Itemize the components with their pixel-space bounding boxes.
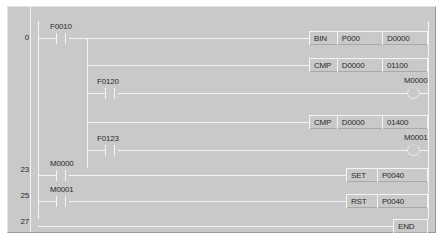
instruction-op-set: SET [346,168,377,182]
instruction-op-end: END [393,219,428,233]
coil-m0000-wire-out [420,93,429,94]
contact-label-f0120: F0120 [97,77,119,86]
contact-f0123[interactable] [101,145,119,156]
contact-f0120[interactable] [101,88,119,99]
step-number-gutter: 0 23 25 27 [8,7,31,232]
right-power-rail [428,21,429,219]
instruction-arg-p0040-set: P0040 [377,168,428,182]
left-power-rail [38,21,39,219]
instruction-op-rst: RST [346,194,377,208]
contact-bar-left [56,196,57,207]
instruction-arg-p000: P000 [337,31,382,45]
rung27-wire [38,226,393,227]
contact-label-m0001: M0001 [50,185,73,194]
contact-bar-left [56,170,57,181]
instruction-arg-d0000-cmp1: D0000 [337,58,382,72]
instruction-box-set[interactable]: SET P0040 [346,168,428,182]
rung23-wire-out [69,175,346,176]
contact-bar-left [105,88,106,99]
rung-f0123-wire-out [118,150,407,151]
contact-bar-right [65,33,66,44]
rung0c-wire [87,122,309,123]
instruction-arg-p0040-rst: P0040 [377,194,428,208]
instruction-box-cmp-1[interactable]: CMP D0000 01100 [309,58,428,72]
instruction-op-cmp-2: CMP [309,115,337,129]
step-number-27: 27 [8,217,29,226]
branch-trunk-vertical [87,38,88,168]
instruction-arg-d0000-bin: D0000 [382,31,428,45]
step-number-0: 0 [8,33,29,42]
instruction-arg-01400: 01400 [382,115,428,129]
contact-f0010[interactable] [52,33,70,44]
contact-label-f0123: F0123 [97,134,119,143]
step-number-25: 25 [8,191,29,200]
coil-label-m0001: M0001 [404,133,427,142]
rung25-wire-out [69,201,346,202]
contact-label-m0000: M0000 [50,159,73,168]
ladder-logic-editor[interactable]: 0 23 25 27 F0010 BIN P000 D0000 CMP D000… [7,6,436,233]
contact-m0000[interactable] [52,170,70,181]
contact-bar-right [65,170,66,181]
instruction-op-bin: BIN [309,31,337,45]
rung-f0120-wire-out [118,93,407,94]
contact-m0001[interactable] [52,196,70,207]
contact-bar-right [65,196,66,207]
coil-m0001-wire-out [420,150,429,151]
instruction-op-cmp-1: CMP [309,58,337,72]
instruction-arg-d0000-cmp2: D0000 [337,115,382,129]
rung0-wire-segment-2 [69,38,309,39]
instruction-box-bin[interactable]: BIN P000 D0000 [309,31,428,45]
contact-bar-right [114,88,115,99]
coil-label-m0000: M0000 [404,76,427,85]
contact-label-f0010: F0010 [50,22,72,31]
instruction-box-rst[interactable]: RST P0040 [346,194,428,208]
rung0b-wire [87,65,309,66]
contact-bar-left [105,145,106,156]
contact-bar-left [56,33,57,44]
contact-bar-right [114,145,115,156]
step-number-23: 23 [8,165,29,174]
coil-m0001[interactable] [407,144,420,156]
instruction-box-end[interactable]: END [393,219,428,233]
instruction-box-cmp-2[interactable]: CMP D0000 01400 [309,115,428,129]
coil-m0000[interactable] [407,87,420,99]
instruction-arg-01100: 01100 [382,58,428,72]
